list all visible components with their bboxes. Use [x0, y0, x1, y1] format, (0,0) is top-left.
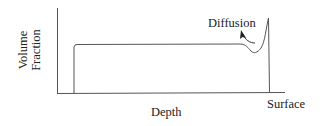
y-axis-label-line2: Fraction	[29, 28, 43, 70]
arrowhead-icon	[240, 30, 246, 39]
surface-label: Surface	[267, 97, 306, 111]
y-axis-label-line1: Volume	[16, 30, 30, 69]
diffusion-arrow-line	[243, 34, 255, 43]
volume-fraction-diagram: Diffusion Depth Surface Volume Fraction	[0, 0, 321, 126]
x-axis	[57, 93, 285, 94]
diffusion-annotation: Diffusion	[208, 16, 256, 30]
x-axis-label: Depth	[151, 105, 182, 119]
